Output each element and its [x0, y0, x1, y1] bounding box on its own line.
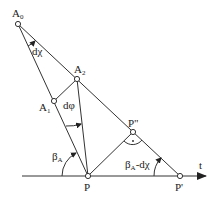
point-a1 [51, 98, 56, 103]
label-dchi: dχ [32, 45, 43, 57]
label-t-axis: t [199, 159, 202, 171]
label-a1: A1 [39, 101, 51, 115]
label-dphi: dφ [63, 99, 75, 111]
line-a2-p [77, 79, 88, 176]
label-a0: A0 [12, 7, 24, 21]
label-p: P [84, 181, 90, 193]
label-p1: P' [175, 181, 183, 193]
label-p2: P" [128, 117, 139, 129]
label-beta-a-minus-dchi: βA-dχ [125, 158, 150, 172]
point-p [85, 173, 90, 178]
beta-a-arc [62, 153, 76, 176]
point-p2 [130, 129, 135, 134]
point-p1 [177, 173, 182, 178]
line-a1-a2 [54, 79, 77, 101]
right-angle-dot [132, 140, 134, 142]
point-a2 [74, 76, 79, 81]
beta-a-dchi-arc [154, 158, 161, 176]
point-a0 [15, 21, 20, 26]
dphi-arc [66, 124, 81, 126]
label-beta-a: βA [52, 150, 63, 164]
geometry-diagram: A0 A1 A2 P P" P' t dχ dφ βA βA-dχ [0, 0, 213, 199]
label-a2: A2 [74, 63, 86, 77]
